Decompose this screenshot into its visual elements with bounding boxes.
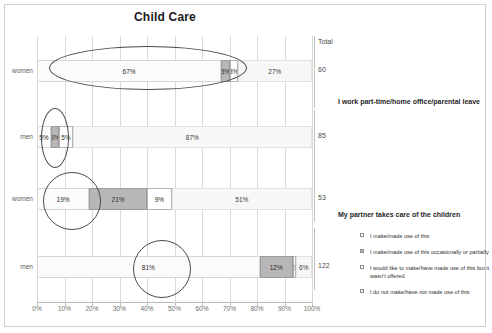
total-value: 53 (318, 194, 344, 201)
bar-segment[interactable]: 3% (221, 60, 229, 82)
legend-label: I make/made use of this (370, 233, 429, 239)
total-column-header: Total (318, 38, 333, 45)
x-tick-label: 100% (304, 305, 321, 312)
total-column-divider (314, 228, 315, 290)
section-heading-work-parttime: I work part-time/home office/parental le… (338, 98, 480, 105)
bar-segment[interactable]: 51% (172, 188, 312, 210)
legend-item-occasionally[interactable]: I make/made use of this occasionally or … (360, 248, 490, 256)
x-tick-label: 60% (195, 305, 208, 312)
bar-row: 19%21%9%51% (37, 188, 312, 210)
legend-label: I make/made use of this occasionally or … (370, 249, 489, 255)
total-value: 60 (318, 66, 344, 73)
x-tick-label: 40% (140, 305, 153, 312)
bar-row: 67%3%3%27% (37, 60, 312, 82)
total-value: 85 (318, 132, 344, 139)
chart-page: Child Care 67%3%3%27%5%3%5%87%19%21%9%51… (0, 0, 492, 333)
category-label-women: women (3, 67, 33, 74)
chart-title: Child Care (0, 10, 330, 24)
bar-segment[interactable]: 3% (51, 126, 59, 148)
bar-segment[interactable]: 21% (89, 188, 147, 210)
bar-row: 5%3%5%87% (37, 126, 312, 148)
section-heading-partner-childcare: My partner takes care of the children (338, 211, 460, 218)
total-column-divider (314, 36, 315, 108)
bar-segment[interactable]: 3% (230, 60, 238, 82)
legend-swatch-icon (360, 249, 364, 253)
plot-area: 67%3%3%27%5%3%5%87%19%21%9%51%81%12%1%6% (37, 36, 312, 303)
legend-item-do-not-use[interactable]: I do not make/have not made use of this (360, 288, 490, 296)
bar-segment[interactable]: 5% (59, 126, 73, 148)
bar-segment[interactable]: 87% (73, 126, 312, 148)
category-label-women: women (3, 195, 33, 202)
legend-label: I would like to make/have made use of th… (370, 265, 489, 279)
legend-item-not-offered[interactable]: I would like to make/have made use of th… (360, 264, 490, 280)
bar-segment[interactable]: 6% (296, 256, 313, 278)
x-tick-label: 70% (223, 305, 236, 312)
total-value: 122 (318, 262, 344, 269)
total-column-divider (314, 110, 315, 168)
x-tick-label: 90% (278, 305, 291, 312)
bar-segment[interactable]: 19% (37, 188, 89, 210)
chart-legend: I make/made use of this I make/made use … (360, 232, 490, 305)
bar-segment[interactable]: 9% (147, 188, 172, 210)
legend-label: I do not make/have not made use of this (370, 289, 470, 295)
gridline (312, 36, 313, 303)
x-tick-label: 0% (32, 305, 41, 312)
x-tick-label: 80% (250, 305, 263, 312)
legend-item-make-use[interactable]: I make/made use of this (360, 232, 490, 240)
bar-row: 81%12%1%6% (37, 256, 312, 278)
legend-swatch-icon (360, 265, 364, 269)
legend-swatch-icon (360, 289, 364, 293)
category-label-men: men (3, 133, 33, 140)
x-tick-label: 50% (168, 305, 181, 312)
x-tick-label: 30% (113, 305, 126, 312)
x-axis-labels: 0%10%20%30%40%50%60%70%80%90%100% (37, 305, 312, 319)
bar-segment[interactable]: 12% (260, 256, 293, 278)
bar-segment[interactable]: 27% (238, 60, 312, 82)
category-label-men: men (3, 263, 33, 270)
x-tick-label: 20% (85, 305, 98, 312)
bar-segment[interactable]: 67% (37, 60, 221, 82)
bar-segment[interactable]: 5% (37, 126, 51, 148)
x-tick-label: 10% (58, 305, 71, 312)
legend-swatch-icon (360, 233, 364, 237)
bar-segment[interactable]: 81% (37, 256, 260, 278)
